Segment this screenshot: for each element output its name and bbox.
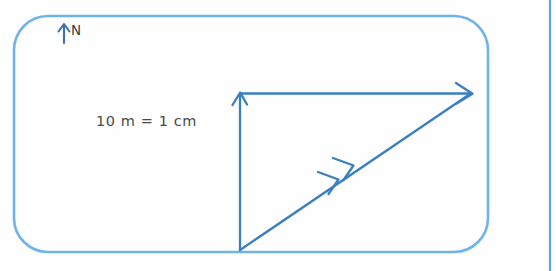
resultant-vector [240, 94, 470, 250]
north-arrow-icon [59, 24, 70, 43]
north-label: N [71, 22, 81, 38]
figure-container: N 10 m = 1 cm [0, 0, 556, 271]
horizontal-vector [240, 83, 473, 104]
figure-border [14, 16, 488, 252]
diagram-canvas [0, 0, 556, 271]
vertical-vector [233, 93, 248, 250]
scale-label: 10 m = 1 cm [96, 113, 197, 129]
